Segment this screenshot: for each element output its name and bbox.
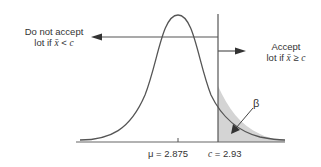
reject-label-prefix: lot if <box>34 37 54 48</box>
reject-label-line1: Do not accept <box>16 26 92 37</box>
c-value: = 2.93 <box>212 148 241 159</box>
accept-arrowhead-icon <box>235 48 246 55</box>
reject-label-line2: lot if x̄ < c <box>16 37 92 49</box>
beta-shaded-region <box>218 86 285 142</box>
reject-region-label: Do not accept lot if x̄ < c <box>16 26 92 49</box>
accept-label-line2: lot if x̄ ≥ c <box>252 52 320 64</box>
c-label: c = 2.93 <box>208 148 242 160</box>
c-symbol: c <box>69 38 73 48</box>
accept-label-prefix: lot if <box>267 52 287 63</box>
beta-label: β <box>253 98 259 109</box>
less-than-symbol: < <box>59 37 70 48</box>
accept-region-label: Accept lot if x̄ ≥ c <box>252 41 320 64</box>
accept-label-line1: Accept <box>252 41 320 52</box>
reject-arrowhead-icon <box>91 34 102 41</box>
c-symbol: c <box>301 53 305 63</box>
geq-symbol: ≥ <box>291 52 302 63</box>
normal-curve <box>80 15 285 140</box>
mu-label: μ = 2.875 <box>148 148 188 159</box>
